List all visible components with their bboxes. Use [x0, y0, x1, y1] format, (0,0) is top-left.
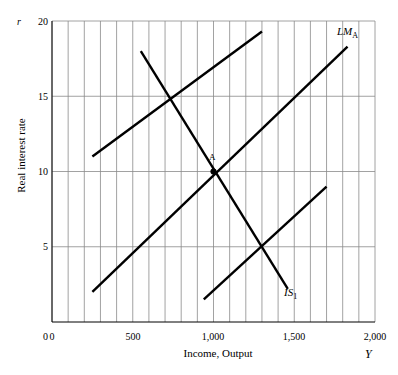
x-tick-label-1000: 1,000	[193, 332, 233, 342]
y-axis-symbol: r	[17, 17, 21, 27]
series-line-is-shifted	[204, 187, 327, 300]
curve-label-is-subscript: 1	[293, 292, 297, 301]
curve-label-lm-subscript: A	[352, 31, 358, 40]
x-axis-title: Income, Output	[163, 348, 273, 359]
x-tick-label-0: 0	[32, 332, 72, 342]
y-tick-label-20: 20	[22, 17, 48, 27]
series-line-lm-original	[92, 32, 262, 157]
y-axis-title: Real interest rate	[16, 101, 27, 211]
point-a-marker	[210, 168, 216, 174]
chart-plot-area	[0, 0, 398, 375]
series-line-lm-a	[92, 47, 347, 292]
chart-figure: 20 15 10 5 0 0 500 1,000 1,500 2,000 r Y…	[0, 0, 398, 375]
x-axis-symbol: Y	[365, 348, 372, 360]
x-tick-label-2000: 2,000	[355, 332, 395, 342]
curve-label-lm: LMA	[337, 25, 358, 40]
curve-label-is: IS1	[284, 286, 297, 301]
y-tick-label-5: 5	[22, 242, 48, 252]
curve-label-lm-text: LM	[337, 25, 352, 37]
x-tick-label-500: 500	[113, 332, 153, 342]
point-a-label: A	[209, 152, 216, 162]
curve-label-is-text: IS	[284, 286, 293, 298]
x-tick-label-1500: 1,500	[274, 332, 314, 342]
series-lines	[92, 32, 347, 300]
